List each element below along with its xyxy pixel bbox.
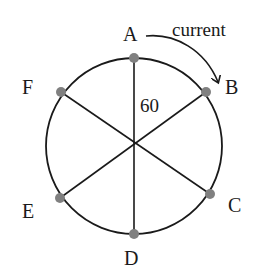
label-a: A xyxy=(123,23,138,45)
label-d: D xyxy=(124,247,138,269)
point-d-marker xyxy=(129,229,139,239)
label-b: B xyxy=(225,76,238,98)
point-b-marker xyxy=(201,87,211,97)
point-f-marker xyxy=(56,87,66,97)
angle-label: 60 xyxy=(140,95,159,116)
point-markers xyxy=(55,53,215,239)
current-arrow xyxy=(146,36,218,82)
label-f: F xyxy=(22,76,33,98)
label-e: E xyxy=(22,200,34,222)
diameter-f-c xyxy=(61,92,210,194)
point-a-marker xyxy=(129,53,139,63)
rotation-diagram: A B C D E F 60 current xyxy=(0,0,271,269)
diameter-b-e xyxy=(60,92,206,198)
point-c-marker xyxy=(205,189,215,199)
diagram-svg: A B C D E F 60 current xyxy=(0,0,271,269)
current-label: current xyxy=(172,19,227,40)
label-c: C xyxy=(228,194,241,216)
point-e-marker xyxy=(55,193,65,203)
